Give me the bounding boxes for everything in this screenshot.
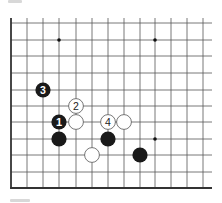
cut-off-caption-bottom [10, 199, 30, 202]
move-number-label: 3 [40, 84, 46, 96]
move-number-label: 4 [105, 116, 111, 128]
star-point-icon [153, 38, 157, 42]
white-stone [85, 148, 100, 163]
star-point-icon [57, 38, 61, 42]
white-stone: 4 [101, 115, 116, 130]
star-point-icon [153, 137, 157, 141]
white-stone: 2 [69, 99, 84, 114]
board-grid [10, 18, 212, 189]
white-stone [117, 115, 132, 130]
black-stone: 3 [35, 82, 50, 97]
move-number-label: 2 [73, 100, 79, 112]
black-stone [132, 147, 147, 162]
stones-layer: 3214 [35, 82, 147, 162]
go-board-diagram: 3214 [0, 0, 222, 203]
move-number-label: 1 [56, 116, 62, 128]
white-stone [69, 115, 84, 130]
cut-off-caption-top [8, 0, 22, 3]
black-stone: 1 [51, 114, 66, 129]
black-stone [51, 131, 66, 146]
black-stone [100, 131, 115, 146]
